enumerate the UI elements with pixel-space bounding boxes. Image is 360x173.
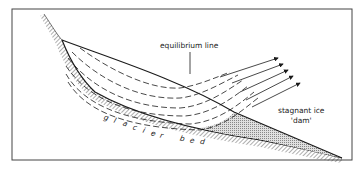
stagnant-ice-label-line1: stagnant ice — [278, 107, 324, 115]
stagnant-ice-label: stagnant ice 'dam' — [278, 107, 324, 124]
stagnant-ice-label-line2: 'dam' — [278, 117, 324, 125]
bed-letter: d — [199, 137, 205, 147]
equilibrium-line-label: equilibrium line — [160, 42, 218, 50]
flow-arrows — [220, 58, 300, 107]
glacier-diagram — [0, 0, 360, 173]
